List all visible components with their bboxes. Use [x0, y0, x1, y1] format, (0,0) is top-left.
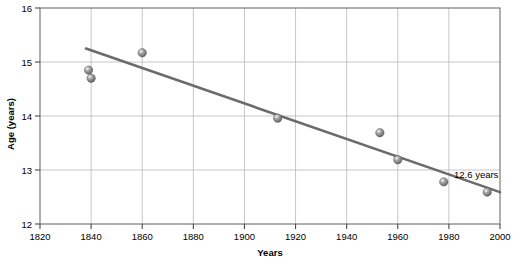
x-axis-title: Years	[257, 247, 282, 258]
data-point-marker	[273, 114, 281, 122]
x-tick-label: 1980	[438, 231, 459, 242]
chart-container: 1213141516 18201840186018801900192019401…	[0, 0, 516, 264]
annotation-label: 12.6 years	[454, 169, 499, 180]
y-tick-label: 15	[21, 57, 32, 68]
y-tick-label: 12	[21, 219, 32, 230]
y-tick-label: 14	[21, 111, 32, 122]
x-tick-label: 1820	[29, 231, 50, 242]
x-tick-label: 1940	[336, 231, 357, 242]
x-tick-label: 1920	[285, 231, 306, 242]
x-tick-label: 1860	[132, 231, 153, 242]
x-tick-label: 1840	[81, 231, 102, 242]
data-point-marker	[483, 188, 491, 196]
x-tick-label: 1960	[387, 231, 408, 242]
y-axis-title: Age (years)	[5, 98, 16, 150]
y-tick-label: 13	[21, 165, 32, 176]
x-tick-label: 1880	[183, 231, 204, 242]
data-point-marker	[138, 49, 146, 57]
x-tick-label: 1900	[234, 231, 255, 242]
scatter-plot: 1213141516 18201840186018801900192019401…	[0, 0, 516, 264]
data-point-marker	[87, 74, 95, 82]
x-axis-ticks: 1820184018601880190019201940196019802000	[29, 224, 510, 242]
y-tick-label: 16	[21, 3, 32, 14]
y-axis-ticks: 1213141516	[21, 3, 40, 230]
data-point-marker	[394, 156, 402, 164]
chart-annotations: 12.6 years	[454, 169, 499, 180]
data-point-marker	[376, 129, 384, 137]
data-point-marker	[440, 178, 448, 186]
data-point-marker	[84, 66, 92, 74]
x-tick-label: 2000	[489, 231, 510, 242]
